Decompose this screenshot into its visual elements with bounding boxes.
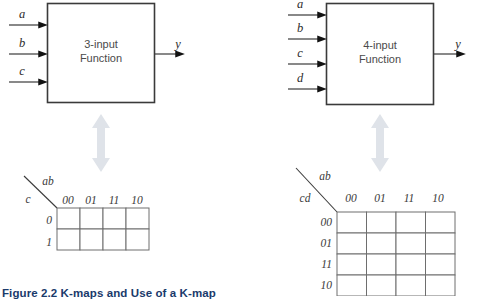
input-label-d: d: [297, 71, 304, 85]
kmap-row-header-1: 01: [321, 237, 333, 249]
kmap-cell[interactable]: [426, 212, 456, 233]
kmap-grid: [337, 212, 455, 296]
kmap-row-header-0: 00: [321, 216, 333, 228]
block-label-line1: 3-input: [84, 38, 118, 50]
input-label-a: a: [19, 7, 25, 21]
kmap-cell[interactable]: [426, 275, 456, 296]
kmap-cell[interactable]: [337, 233, 367, 254]
kmap-cell[interactable]: [103, 208, 126, 229]
kmap-col-header-2: 11: [404, 192, 415, 204]
kmap-cell[interactable]: [57, 208, 80, 229]
kmap-cell[interactable]: [367, 254, 397, 275]
kmap-four-input: ab cd 00 01 11 10 00 01 11 10: [296, 168, 455, 296]
panel-four-input: 4-input Function a b c d y ab cd: [288, 0, 461, 296]
kmap-col-header-0: 00: [345, 192, 357, 204]
block-label-line1: 4-input: [363, 39, 397, 51]
kmap-cell[interactable]: [126, 229, 149, 250]
kmap-cell[interactable]: [103, 229, 126, 250]
kmap-row-var: c: [25, 193, 30, 205]
input-label-c: c: [19, 64, 25, 78]
kmap-cell[interactable]: [367, 275, 397, 296]
block-label-line2: Function: [80, 52, 122, 64]
kmap-cell[interactable]: [126, 208, 149, 229]
input-label-c: c: [297, 46, 303, 60]
block-label-line2: Function: [359, 53, 401, 65]
connector-double-arrow-right: [371, 114, 389, 172]
kmap-diagonal: [296, 168, 337, 212]
kmap-cell[interactable]: [396, 275, 426, 296]
input-label-a: a: [297, 0, 303, 11]
panel-three-input: 3-input Function a b c y ab: [9, 4, 181, 251]
kmap-col-var: ab: [42, 175, 54, 187]
figure-caption: Figure 2.2 K-maps and Use of a K-map: [2, 287, 216, 299]
kmap-col-header-3: 10: [131, 194, 143, 206]
kmap-row-header-1: 1: [46, 236, 52, 248]
kmap-col-header-1: 01: [85, 194, 97, 206]
kmap-cell[interactable]: [80, 208, 103, 229]
kmap-row-header-2: 11: [321, 258, 332, 270]
kmap-cell[interactable]: [337, 212, 367, 233]
kmap-cell[interactable]: [426, 233, 456, 254]
kmap-col-header-0: 00: [62, 194, 74, 206]
kmap-cell[interactable]: [426, 254, 456, 275]
input-label-b: b: [19, 36, 25, 50]
output-label-y: y: [173, 37, 181, 51]
kmap-cell[interactable]: [80, 229, 103, 250]
kmap-three-input: ab c 00 01 11 10 0 1: [24, 175, 149, 250]
kmap-grid: [57, 208, 149, 250]
kmap-cell[interactable]: [367, 212, 397, 233]
kmap-cell[interactable]: [337, 275, 367, 296]
kmap-row-header-3: 10: [321, 279, 333, 291]
kmap-col-header-2: 11: [109, 194, 120, 206]
kmap-cell[interactable]: [367, 233, 397, 254]
kmap-cell[interactable]: [396, 212, 426, 233]
connector-double-arrow-left: [92, 114, 110, 172]
kmap-cell[interactable]: [396, 254, 426, 275]
kmap-col-header-1: 01: [374, 192, 386, 204]
kmap-row-var: cd: [300, 192, 311, 204]
input-label-b: b: [297, 21, 303, 35]
kmap-cell[interactable]: [337, 254, 367, 275]
kmap-cell[interactable]: [57, 229, 80, 250]
kmap-col-header-3: 10: [432, 192, 444, 204]
kmap-cell[interactable]: [396, 233, 426, 254]
output-label-y: y: [453, 37, 461, 51]
kmap-row-header-0: 0: [46, 214, 52, 226]
kmap-col-var: ab: [319, 170, 331, 182]
